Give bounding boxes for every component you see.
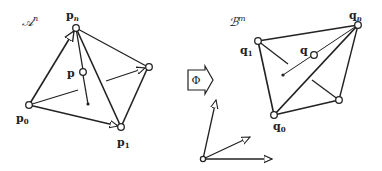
frame-origin <box>200 156 205 161</box>
axis-diagonal <box>203 137 250 159</box>
label-q-0: q0 <box>273 120 286 134</box>
edge-pn-right <box>76 28 148 67</box>
space-label-b: ℬm <box>229 14 246 29</box>
point-dot-right <box>281 73 284 76</box>
right-simplex <box>255 22 362 119</box>
edge-q1-right-b <box>312 80 339 100</box>
edge-p0-p1 <box>29 105 118 126</box>
label-q-n: qn <box>349 9 362 23</box>
vertex-q-1 <box>255 38 262 45</box>
label-p-n: pn <box>66 9 79 23</box>
edge-p0-right-b <box>106 68 145 81</box>
axis-vertical <box>203 100 216 159</box>
vertex-q-0 <box>271 112 278 119</box>
label-q: q <box>300 44 308 57</box>
affine-map-diagram: 𝒜n pn p p0 p1 Φ ℬm qn q1 q q0 <box>0 0 382 171</box>
vertex-p <box>80 69 87 76</box>
vertex-right-b <box>336 97 343 104</box>
label-p-1: p1 <box>117 136 130 150</box>
edge-q0-qn <box>274 25 358 115</box>
label-p-0: p0 <box>16 112 29 126</box>
point-dot-left <box>86 102 89 105</box>
space-label-a: 𝒜n <box>22 14 38 29</box>
vertex-q <box>311 52 318 59</box>
vertex-p-n <box>73 25 80 32</box>
vertex-p-0 <box>26 102 33 109</box>
edge-q0-right <box>274 100 339 115</box>
map-phi-arrow: Φ <box>188 66 213 94</box>
coordinate-frame <box>200 100 272 162</box>
edge-right-p1 <box>121 67 148 127</box>
vertex-right <box>146 64 153 71</box>
map-label-phi: Φ <box>191 74 200 87</box>
line-p-dot <box>83 75 88 104</box>
left-simplex <box>26 25 153 131</box>
label-q-1: q1 <box>240 44 253 58</box>
edge-pn-p1 <box>76 28 121 127</box>
vertex-p-1 <box>118 124 125 131</box>
label-p: p <box>67 67 75 80</box>
edge-q1-qn <box>258 25 358 41</box>
